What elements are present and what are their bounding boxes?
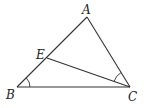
segment-EC: [47, 58, 130, 87]
segment-AC: [87, 17, 130, 87]
label-B: B: [5, 88, 15, 102]
segment-AB: [17, 17, 87, 87]
label-E: E: [35, 48, 45, 62]
angle-B-mark: [26, 78, 30, 87]
triangle-diagram: A B C E: [0, 0, 146, 108]
label-A: A: [81, 3, 91, 17]
angle-ACE-mark: [114, 73, 121, 82]
label-C: C: [128, 90, 137, 104]
